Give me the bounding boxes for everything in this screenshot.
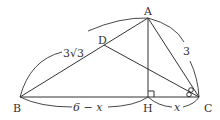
label-point-c: C [204, 102, 212, 115]
label-length-ab: 3√3 [63, 47, 84, 60]
label-point-b: B [13, 102, 21, 115]
label-point-h: H [143, 102, 153, 115]
angle-mark-upper [189, 88, 194, 93]
triangle-diagram: A B C D H 3√3 3 6 − x x [0, 0, 220, 120]
arc-ab-upper [88, 18, 148, 31]
arc-bh-right [108, 97, 148, 107]
label-length-ac: 3 [183, 45, 190, 58]
angle-mark-lower [187, 92, 192, 97]
label-length-hc: x [174, 101, 181, 114]
arc-ac-lower [190, 61, 199, 97]
label-point-d: D [98, 34, 107, 47]
label-length-bh: 6 − x [73, 101, 103, 114]
label-point-a: A [143, 5, 153, 18]
arc-hc-right [183, 97, 199, 107]
arc-ac-upper [148, 18, 184, 42]
arc-bh-left [20, 97, 72, 107]
right-angle-mark [148, 91, 154, 97]
